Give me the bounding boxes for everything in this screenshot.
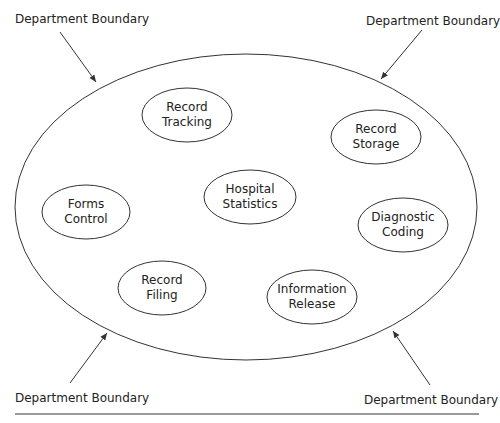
- arrow-bottom-left: [70, 333, 107, 383]
- node-label-line2: Coding: [382, 225, 424, 240]
- node-hospital-statistics: Hospital Statistics: [204, 170, 296, 224]
- node-label-line2: Statistics: [223, 197, 278, 212]
- node-label-line1: Record: [355, 122, 396, 137]
- node-label-line2: Release: [289, 297, 336, 312]
- node-label-line1: Diagnostic: [371, 210, 434, 225]
- node-label-line1: Record: [141, 273, 182, 288]
- boundary-label-top-left: Department Boundary: [15, 12, 149, 26]
- boundary-label-bottom-right: Department Boundary: [364, 393, 498, 407]
- node-label-line2: Tracking: [162, 115, 212, 130]
- node-information-release: Information Release: [267, 270, 357, 324]
- node-label-line2: Control: [64, 212, 107, 227]
- arrow-top-left: [60, 32, 96, 82]
- boundary-label-bottom-left: Department Boundary: [15, 391, 149, 405]
- node-label-line2: Filing: [146, 288, 177, 303]
- node-label-line2: Storage: [353, 137, 400, 152]
- node-record-filing: Record Filing: [118, 261, 206, 315]
- arrow-bottom-right: [393, 331, 430, 385]
- node-forms-control: Forms Control: [42, 185, 130, 239]
- node-diagnostic-coding: Diagnostic Coding: [358, 198, 448, 252]
- node-label-line1: Forms: [68, 197, 104, 212]
- boundary-label-top-right: Department Boundary: [366, 14, 500, 28]
- node-record-storage: Record Storage: [331, 110, 421, 164]
- node-label-line1: Record: [166, 100, 207, 115]
- node-label-line1: Information: [277, 282, 346, 297]
- node-record-tracking: Record Tracking: [142, 88, 232, 142]
- arrow-top-right: [381, 30, 422, 79]
- node-label-line1: Hospital: [226, 182, 275, 197]
